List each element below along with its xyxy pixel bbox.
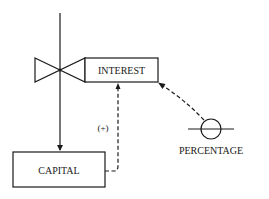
polarity-label: (+): [97, 123, 108, 133]
arrowhead-icon: [158, 83, 166, 90]
stock-flow-diagram: INTEREST CAPITAL (+) PERCENTAGE: [0, 0, 269, 199]
capital-label: CAPITAL: [38, 165, 79, 176]
arrowhead-icon: [116, 83, 121, 89]
percentage-node: PERCENTAGE: [179, 119, 243, 156]
capital-node: CAPITAL: [13, 152, 105, 187]
interest-node: INTEREST: [85, 58, 158, 82]
percentage-label: PERCENTAGE: [179, 145, 243, 156]
percentage-to-interest-link: [163, 86, 204, 120]
interest-label: INTEREST: [98, 65, 145, 76]
